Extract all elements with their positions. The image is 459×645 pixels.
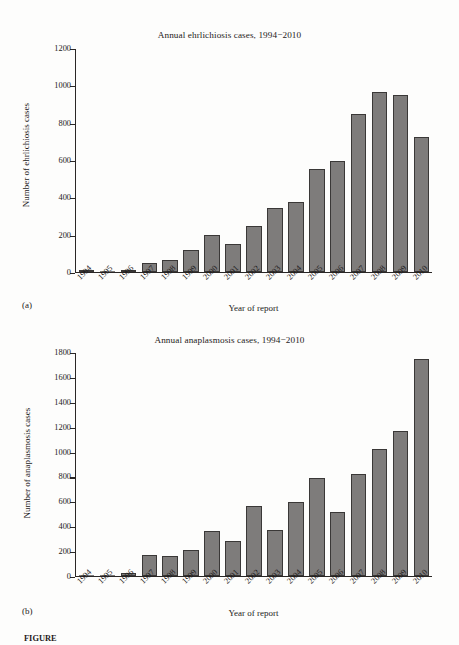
x-tick-slot: 2009 xyxy=(391,578,412,612)
chart-panel-a: Annual ehrlichiosis cases, 1994−2010 Num… xyxy=(0,0,459,318)
y-tick-label: 200 xyxy=(58,548,71,556)
figure-caption: FIGURE xyxy=(24,634,441,645)
bar-slot xyxy=(327,49,348,272)
x-tick-slot: 2001 xyxy=(223,578,244,612)
y-tick-label: 1200 xyxy=(54,45,71,53)
bar-series-b xyxy=(76,353,432,576)
plot-area-a: 020040060080010001200 xyxy=(75,49,432,273)
bar-2009 xyxy=(393,431,408,576)
y-axis-title-b: Number of anaplasmosis cases xyxy=(22,398,32,528)
x-tick-slot: 2002 xyxy=(244,578,265,612)
y-tick-label: 800 xyxy=(58,473,71,481)
x-tick-slot: 2000 xyxy=(202,578,223,612)
x-tick-slot: 2006 xyxy=(328,578,349,612)
x-tick-slot: 2007 xyxy=(349,578,370,612)
x-tick-slot: 2004 xyxy=(286,578,307,612)
bar-2004 xyxy=(288,202,303,272)
bar-slot xyxy=(411,353,432,576)
y-axis-title-a: Number of ehrlichiosis cases xyxy=(21,91,31,219)
y-tick-label: 1200 xyxy=(54,423,71,431)
bar-series-a xyxy=(76,49,432,272)
bar-slot xyxy=(306,353,327,576)
bar-slot xyxy=(202,353,223,576)
y-tick-label: 0 xyxy=(67,573,71,581)
panel-label-b: (b) xyxy=(22,606,33,616)
bar-slot xyxy=(411,49,432,272)
bar-slot xyxy=(244,353,265,576)
x-axis-tick-labels-b: 1994199519961997199819992000200120022003… xyxy=(76,578,433,612)
y-tick-label: 200 xyxy=(58,231,71,239)
y-tick-label: 1000 xyxy=(54,82,71,90)
x-tick-slot: 2005 xyxy=(307,578,328,612)
y-tick-label: 0 xyxy=(67,269,71,277)
x-tick-slot: 1998 xyxy=(160,578,181,612)
bar-slot xyxy=(76,353,97,576)
bar-2003 xyxy=(267,208,282,272)
y-tick-label: 600 xyxy=(58,498,71,506)
x-tick-slot: 1999 xyxy=(181,578,202,612)
bar-2007 xyxy=(351,114,366,272)
bar-slot xyxy=(223,353,244,576)
bar-slot xyxy=(97,353,118,576)
bar-slot xyxy=(369,49,390,272)
bar-slot xyxy=(139,49,160,272)
chart-title-a: Annual ehrlichiosis cases, 1994−2010 xyxy=(0,30,459,40)
plot-area-b: 020040060080010001200140016001800 xyxy=(75,353,432,577)
bar-slot xyxy=(118,353,139,576)
bar-2006 xyxy=(330,161,345,273)
bar-slot xyxy=(348,49,369,272)
x-tick-slot: 2003 xyxy=(265,578,286,612)
bar-slot xyxy=(160,353,181,576)
bar-2002 xyxy=(246,506,261,576)
x-tick-slot: 1997 xyxy=(139,578,160,612)
bar-2010 xyxy=(414,137,429,272)
bar-2006 xyxy=(330,512,345,576)
y-tick-label: 800 xyxy=(58,119,71,127)
y-tick-label: 400 xyxy=(58,194,71,202)
bar-2007 xyxy=(351,474,366,576)
bar-slot xyxy=(306,49,327,272)
figure-page: Annual ehrlichiosis cases, 1994−2010 Num… xyxy=(0,0,459,645)
bar-slot xyxy=(390,49,411,272)
y-tick-label: 1400 xyxy=(54,399,71,407)
x-tick-slot: 2008 xyxy=(370,578,391,612)
bar-slot xyxy=(285,49,306,272)
bar-slot xyxy=(202,49,223,272)
y-tick-label: 1600 xyxy=(54,374,71,382)
chart-panel-b: Annual anaplasmosis cases, 1994−2010 Num… xyxy=(0,320,459,645)
bar-slot xyxy=(76,49,97,272)
bar-2005 xyxy=(309,478,324,576)
bar-slot xyxy=(181,49,202,272)
bar-2005 xyxy=(309,169,324,272)
x-tick-slot: 2010 xyxy=(412,578,433,612)
bar-2009 xyxy=(393,95,408,272)
bar-slot xyxy=(327,353,348,576)
y-tick-label: 600 xyxy=(58,157,71,165)
bar-slot xyxy=(348,353,369,576)
x-tick-slot: 1994 xyxy=(76,578,97,612)
bar-slot xyxy=(244,49,265,272)
bar-slot xyxy=(97,49,118,272)
bar-slot xyxy=(223,49,244,272)
panel-label-a: (a) xyxy=(22,300,32,310)
bar-2010 xyxy=(414,359,429,576)
bar-slot xyxy=(264,49,285,272)
bar-slot xyxy=(285,353,306,576)
bar-slot xyxy=(160,49,181,272)
bar-slot xyxy=(369,353,390,576)
bar-slot xyxy=(390,353,411,576)
bar-2008 xyxy=(372,449,387,576)
x-tick-slot: 1996 xyxy=(118,578,139,612)
bar-slot xyxy=(118,49,139,272)
y-tick-label: 1800 xyxy=(54,349,71,357)
y-tick-label: 1000 xyxy=(54,448,71,456)
bar-slot xyxy=(181,353,202,576)
x-tick-slot: 1995 xyxy=(97,578,118,612)
bar-slot xyxy=(139,353,160,576)
chart-title-b: Annual anaplasmosis cases, 1994−2010 xyxy=(0,335,459,345)
bar-2008 xyxy=(372,92,387,272)
figure-caption-prefix: FIGURE xyxy=(24,634,57,643)
x-axis-title-a: Year of report xyxy=(75,303,432,313)
x-axis-title-b: Year of report xyxy=(75,608,432,618)
y-tick-label: 400 xyxy=(58,523,71,531)
